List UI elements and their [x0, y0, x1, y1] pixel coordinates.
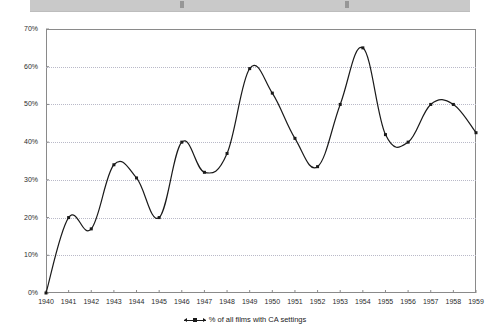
strip-dot-right	[345, 1, 349, 8]
series-markers	[45, 46, 478, 294]
x-axis-tick-label: 1946	[174, 297, 190, 306]
x-axis-tick-label: 1949	[242, 297, 258, 306]
x-axis-tick-label: 1943	[106, 297, 122, 306]
chart-legend: % of all films with CA settings	[0, 312, 490, 328]
data-point-marker	[316, 165, 319, 168]
x-axis-tick-label: 1957	[423, 297, 439, 306]
x-axis-tick-label: 1956	[400, 297, 416, 306]
legend-marker-icon	[184, 316, 206, 325]
data-point-marker	[226, 152, 229, 155]
line-chart: 0%10%20%30%40%50%60%70% 1940194119421943…	[0, 15, 490, 334]
data-point-marker	[203, 171, 206, 174]
chart-page: 0%10%20%30%40%50%60%70% 1940194119421943…	[0, 0, 490, 334]
data-point-marker	[452, 103, 455, 106]
y-axis-tick-label: 70%	[24, 25, 38, 33]
strip-dot-left	[180, 1, 184, 8]
data-point-marker	[112, 163, 115, 166]
x-axis-tick-label: 1952	[310, 297, 326, 306]
y-axis-labels: 0%10%20%30%40%50%60%70%	[0, 29, 42, 293]
x-axis-tick-label: 1955	[378, 297, 394, 306]
x-axis-tick-label: 1942	[83, 297, 99, 306]
data-point-marker	[135, 176, 138, 179]
x-axis-tick-label: 1958	[446, 297, 462, 306]
data-point-marker	[248, 67, 251, 70]
y-axis-tick-label: 50%	[24, 100, 38, 108]
x-axis-ticks	[46, 290, 476, 293]
y-axis-tick-label: 0%	[28, 289, 38, 297]
data-point-marker	[339, 103, 342, 106]
x-axis-tick-label: 1948	[219, 297, 235, 306]
data-point-marker	[293, 137, 296, 140]
top-gray-strip	[30, 0, 470, 12]
series-plot	[46, 29, 476, 293]
x-axis-tick-label: 1945	[151, 297, 167, 306]
x-axis-tick-label: 1953	[332, 297, 348, 306]
data-point-marker	[271, 92, 274, 95]
x-axis-labels: 1940194119421943194419451946194719481949…	[46, 297, 476, 311]
data-point-marker	[67, 216, 70, 219]
series-line	[46, 47, 476, 293]
x-axis-tick-label: 1940	[38, 297, 54, 306]
data-point-marker	[429, 103, 432, 106]
data-point-marker	[90, 227, 93, 230]
data-point-marker	[180, 141, 183, 144]
legend-label: % of all films with CA settings	[209, 315, 307, 325]
x-axis-tick-label: 1944	[129, 297, 145, 306]
data-point-marker	[384, 133, 387, 136]
x-axis-tick-label: 1954	[355, 297, 371, 306]
data-point-marker	[407, 141, 410, 144]
data-point-marker	[45, 292, 48, 295]
y-axis-tick-label: 30%	[24, 176, 38, 184]
y-axis-tick-label: 10%	[24, 251, 38, 259]
y-axis-tick-label: 60%	[24, 63, 38, 71]
x-axis-tick-label: 1951	[287, 297, 303, 306]
x-axis-tick-label: 1947	[197, 297, 213, 306]
x-axis-tick-label: 1950	[265, 297, 281, 306]
y-axis-ticks	[46, 29, 49, 293]
x-axis-tick-label: 1959	[468, 297, 484, 306]
x-axis-tick-label: 1941	[61, 297, 77, 306]
y-axis-tick-label: 20%	[24, 214, 38, 222]
data-point-marker	[475, 131, 478, 134]
data-point-marker	[361, 46, 364, 49]
data-point-marker	[158, 216, 161, 219]
y-axis-tick-label: 40%	[24, 138, 38, 146]
